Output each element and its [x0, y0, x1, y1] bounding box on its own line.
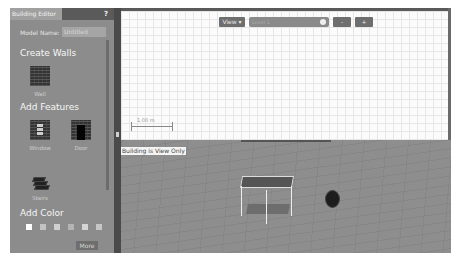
wall-label: Wall	[25, 91, 55, 97]
panel-scrollbar[interactable]	[106, 40, 109, 190]
panel-header: Building Editor ?	[10, 8, 114, 20]
color-swatch-6[interactable]	[96, 224, 102, 230]
panel-title: Building Editor	[10, 8, 62, 20]
window-icon	[30, 120, 50, 140]
create-walls-heading: Create Walls	[20, 48, 76, 58]
box-edge	[266, 190, 267, 224]
level-select[interactable]: Level 1	[249, 17, 329, 27]
window-button[interactable]: Window	[25, 120, 55, 151]
editor-right-border	[448, 8, 451, 140]
add-color-heading: Add Color	[20, 208, 64, 218]
level-select-value: Level 1	[252, 19, 270, 25]
wall-button[interactable]: Wall	[25, 66, 55, 97]
remove-level-button[interactable]: -	[333, 17, 351, 27]
scene-3d-view[interactable]: Building is View Only	[121, 140, 451, 253]
wall-icon	[30, 66, 50, 86]
door-label: Door	[66, 145, 96, 151]
stairs-button[interactable]: Stairs	[25, 176, 55, 201]
box-edge	[291, 186, 292, 216]
building-editor-app: Building Editor ? Model Name: Untitled C…	[10, 8, 451, 253]
box-edge	[241, 186, 242, 216]
model-name-label: Model Name:	[20, 29, 60, 36]
color-swatch-2[interactable]	[40, 224, 46, 230]
color-swatch-5[interactable]	[82, 224, 88, 230]
color-swatch-white[interactable]	[26, 224, 32, 230]
color-swatch-4[interactable]	[68, 224, 74, 230]
add-level-button[interactable]: +	[355, 17, 373, 27]
model-name-input[interactable]: Untitled	[62, 27, 106, 37]
add-features-heading: Add Features	[20, 102, 79, 112]
stairs-label: Stairs	[25, 195, 55, 201]
box-model[interactable]	[237, 174, 297, 224]
box-top-face	[240, 176, 294, 188]
view-menu-button[interactable]: View ▾	[219, 17, 245, 27]
door-icon	[71, 120, 91, 140]
chevron-down-icon	[320, 19, 326, 25]
scale-bar	[131, 126, 173, 127]
window-label: Window	[25, 145, 55, 151]
panel-collapse-handle[interactable]	[116, 132, 119, 137]
color-swatch-3[interactable]	[54, 224, 60, 230]
help-button[interactable]: ?	[102, 8, 110, 20]
cylinder-model[interactable]	[325, 190, 340, 208]
box-shadow	[246, 204, 290, 214]
door-button[interactable]: Door	[66, 120, 96, 151]
panel-divider	[114, 8, 121, 253]
view-splitter-handle[interactable]	[241, 140, 331, 142]
view-only-status: Building is View Only	[121, 147, 186, 155]
stairs-icon	[31, 176, 49, 190]
floorplan-2d-editor[interactable]: View ▾ Level 1 - + 1.00 m	[121, 8, 448, 140]
scale-label: 1.00 m	[137, 117, 155, 123]
more-colors-button[interactable]: More	[76, 241, 98, 250]
building-editor-panel: Building Editor ? Model Name: Untitled C…	[10, 8, 114, 253]
